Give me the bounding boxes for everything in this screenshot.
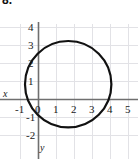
grid-vertical <box>21 24 129 159</box>
x-tick-label-4: 4 <box>107 104 113 115</box>
y-tick-label-2: 2 <box>28 58 34 69</box>
y-axis-label: y <box>40 143 44 153</box>
x-tick-label-5: 5 <box>125 104 131 115</box>
x-tick-label-2: 2 <box>71 104 77 115</box>
x-axis-label: x <box>3 89 7 99</box>
y-tick-label-1: 1 <box>28 76 34 87</box>
x-tick-label-1: 1 <box>53 104 59 115</box>
x-tick-label--1: -1 <box>15 104 24 115</box>
y-tick-label-3: 3 <box>28 40 34 51</box>
figure-root: 8. <box>0 0 138 159</box>
y-tick-label-4: 4 <box>28 22 34 33</box>
plot-svg <box>0 10 138 159</box>
x-tick-label-0: 0 <box>35 104 41 115</box>
coordinate-plot: -1 0 1 2 3 4 5 4 3 2 1 -1 -2 x y <box>0 10 138 159</box>
problem-number: 8. <box>2 0 12 6</box>
y-tick-label--2: -2 <box>26 130 35 141</box>
x-tick-label-3: 3 <box>89 104 95 115</box>
y-tick-label--1: -1 <box>26 112 35 123</box>
